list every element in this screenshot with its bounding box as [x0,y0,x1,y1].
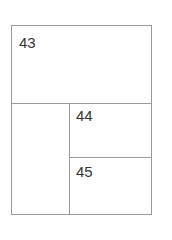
horizontal-divider [11,103,152,104]
vertical-divider [69,103,70,215]
panel-label-bottom-right-top: 44 [76,108,93,123]
panel-label-bottom-right-bottom: 45 [76,164,93,179]
panel-label-top: 43 [19,35,36,50]
right-column-divider [69,157,152,158]
